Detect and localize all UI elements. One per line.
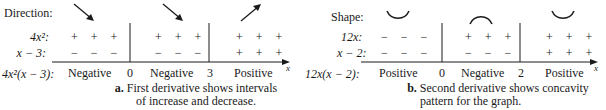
interval-result: Positive — [545, 66, 584, 81]
panel-first-derivative: Direction: 4x²: x − 3: 4x²(x − 3): + + +… — [0, 0, 300, 110]
caption: b. Second derivative shows concavity pat… — [398, 82, 598, 108]
critical-point: 2 — [518, 66, 524, 81]
axis-label: x — [286, 63, 290, 73]
interval-result: Positive — [379, 66, 418, 81]
critical-point: 0 — [127, 66, 133, 81]
product-label: 12x(x − 2): — [305, 67, 360, 82]
number-line — [300, 0, 606, 60]
critical-point: 0 — [439, 66, 445, 81]
axis-label: x — [594, 63, 598, 73]
interval-result: Negative — [150, 66, 193, 81]
interval-result: Positive — [234, 66, 273, 81]
caption: a. First derivative shows intervals of i… — [96, 82, 296, 108]
critical-point: 3 — [207, 66, 213, 81]
number-line — [0, 0, 300, 60]
interval-result: Negative — [68, 66, 111, 81]
interval-result: Negative — [461, 66, 504, 81]
panel-second-derivative: Shape: 12x: x − 2: 12x(x − 2): − − − − −… — [300, 0, 606, 110]
product-label: 4x²(x − 3): — [2, 67, 54, 82]
